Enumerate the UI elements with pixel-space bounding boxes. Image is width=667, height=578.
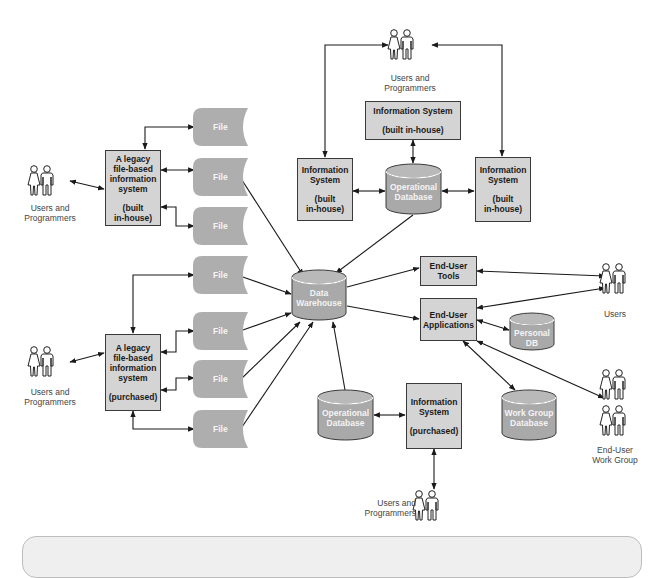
db-label-line: Database [318, 418, 373, 428]
box-label: System [310, 175, 340, 185]
box-label: (built in-house) [382, 125, 443, 135]
actor-label-line: Programmers [352, 508, 416, 518]
box-label: in-house) [114, 213, 152, 223]
information-system-left-box: Information System (built in-house) [297, 158, 353, 221]
operational-database-bottom-label: Operational Database [318, 408, 373, 428]
box-label: file-based [113, 164, 153, 174]
box-label: (built [493, 194, 514, 204]
file-label: File [213, 270, 228, 280]
db-label-line: Warehouse [292, 298, 346, 308]
db-label-line: Operational [386, 182, 441, 192]
box-label: System [488, 175, 518, 185]
box-label: System [419, 407, 449, 417]
users-programmers-top-icon [388, 30, 413, 59]
box-label: system [118, 184, 147, 194]
file-label: File [213, 424, 228, 434]
box-label: file-based [113, 353, 153, 363]
users-programmers-left-top-label: Users and Programmers [10, 203, 90, 223]
box-label: Applications [423, 320, 474, 330]
personal-db-label: Personal DB [510, 328, 554, 348]
box-label: Information [302, 165, 349, 175]
end-user-applications-box: End-User Applications [420, 298, 477, 341]
db-label-line: Work Group [502, 408, 556, 418]
file-label: File [213, 374, 228, 384]
db-label-line: Database [386, 192, 441, 202]
box-label: (built [123, 203, 144, 213]
box-label: End-User [430, 261, 468, 271]
actor-label-line: Users [590, 309, 640, 319]
information-system-top-box: Information System (built in-house) [365, 101, 461, 140]
actor-label-line: Users and [10, 203, 90, 213]
actor-label-line: Programmers [10, 213, 90, 223]
users-label: Users [590, 309, 640, 319]
box-label: (built [315, 194, 336, 204]
db-label-line: Operational [318, 408, 373, 418]
box-label: Information [411, 397, 458, 407]
db-label-line: Personal [510, 328, 554, 338]
data-warehouse-label: Data Warehouse [292, 288, 346, 308]
box-label: system [118, 373, 147, 383]
db-label-line: Database [502, 418, 556, 428]
file-label: File [213, 122, 228, 132]
users-programmers-left-bottom-icon [28, 347, 53, 376]
box-label: (purchased) [109, 392, 158, 402]
box-label: A legacy [116, 343, 151, 353]
actor-label-line: Programmers [10, 397, 90, 407]
legacy-system-purchased-box: A legacy file-based information system (… [105, 334, 161, 411]
information-system-right-box: Information System (built in-house) [475, 157, 531, 222]
operational-database-top-label: Operational Database [386, 182, 441, 202]
users-icon [600, 264, 625, 293]
box-label: A legacy [116, 154, 151, 164]
workgroup-icon-bottom [600, 406, 625, 435]
users-programmers-left-bottom-label: Users and Programmers [10, 387, 90, 407]
box-label: in-house) [484, 204, 522, 214]
box-label: Tools [437, 271, 459, 281]
actor-label-line: End-User [585, 445, 645, 455]
actor-label-line: Programmers [370, 83, 450, 93]
users-programmers-top-label: Users and Programmers [370, 73, 450, 93]
workgroup-database-label: Work Group Database [502, 408, 556, 428]
information-system-purchased-box: Information System (purchased) [406, 383, 462, 449]
users-programmers-bottom-icon [413, 491, 438, 520]
box-label: information [110, 174, 157, 184]
file-label: File [213, 172, 228, 182]
users-programmers-left-top-icon [28, 166, 53, 195]
box-label: information [110, 363, 157, 373]
actor-label-line: Users and [370, 73, 450, 83]
actor-label-line: Users and [10, 387, 90, 397]
workgroup-label: End-User Work Group [585, 445, 645, 465]
box-label: End-User [430, 310, 468, 320]
file-label: File [213, 326, 228, 336]
box-label: in-house) [306, 204, 344, 214]
box-label: (purchased) [410, 426, 459, 436]
caption-panel [22, 536, 642, 578]
users-programmers-bottom-label: Users and Programmers [352, 498, 416, 518]
actor-label-line: Users and [352, 498, 416, 508]
end-user-tools-box: End-User Tools [420, 256, 477, 286]
file-label: File [213, 221, 228, 231]
db-label-line: DB [510, 338, 554, 348]
workgroup-icon-top [600, 370, 625, 399]
db-label-line: Data [292, 288, 346, 298]
box-label: Information System [373, 106, 452, 116]
actor-label-line: Work Group [585, 455, 645, 465]
legacy-system-inhouse-box: A legacy file-based information system (… [105, 150, 161, 226]
box-label: Information [480, 165, 527, 175]
